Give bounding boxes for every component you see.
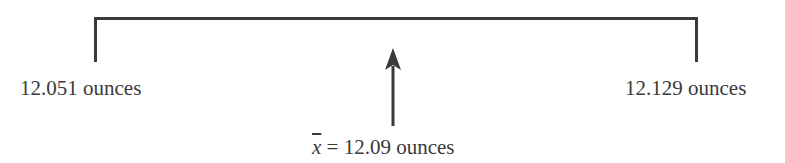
mean-value: 12.09 ounces [344, 135, 455, 159]
arrow-up-icon [380, 46, 406, 128]
lower-bound-label: 12.051 ounces [20, 78, 141, 99]
bracket-left-tick [94, 17, 97, 62]
bracket-right-tick [695, 17, 698, 62]
upper-bound-label: 12.129 ounces [625, 78, 746, 99]
equals-sign: = [321, 135, 343, 159]
bracket-top-line [94, 17, 698, 20]
x-bar-symbol: x [312, 135, 321, 159]
sample-mean-label: x = 12.09 ounces [312, 137, 455, 158]
